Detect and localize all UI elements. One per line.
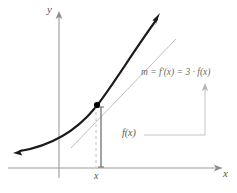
x-tick-label: x <box>94 171 98 181</box>
curve-arrowhead-left <box>13 149 23 155</box>
function-value-label: f(x) <box>122 128 136 138</box>
figure-canvas <box>0 0 237 193</box>
function-curve <box>20 19 157 151</box>
slope-equation-label: m = f'(x) = 3 · f(x) <box>141 68 210 78</box>
tangent-line-figure: y x x f(x) m = f'(x) = 3 · f(x) <box>0 0 237 193</box>
equation-leader-line <box>144 88 205 135</box>
y-axis-label: y <box>47 4 52 15</box>
tangency-point-marker <box>94 102 100 108</box>
x-axis-label: x <box>223 168 228 179</box>
